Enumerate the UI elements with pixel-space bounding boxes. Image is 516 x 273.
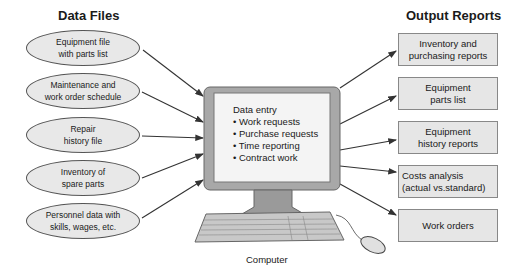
data-files-heading: Data Files <box>58 8 119 23</box>
computer-screen-text: Data entry • Work requests • Purchase re… <box>233 104 318 164</box>
label: Inventory and <box>409 38 488 50</box>
keyboard-icon <box>195 212 344 242</box>
data-file-maintenance: Maintenance andwork order schedule <box>26 73 140 109</box>
label: (actual vs.standard) <box>402 182 485 194</box>
label: purchasing reports <box>409 50 488 62</box>
label: Work orders <box>422 220 474 232</box>
label: Repair <box>64 123 102 135</box>
label: Inventory of <box>61 166 105 178</box>
input-arrows <box>142 50 203 218</box>
data-file-repair-history: Repairhistory file <box>26 117 140 153</box>
label: Maintenance and <box>45 79 122 91</box>
mouse-icon <box>336 215 388 257</box>
data-entry-title: Data entry <box>233 104 318 116</box>
label: skills, wages, etc. <box>46 221 121 233</box>
data-file-personnel: Personnel data withskills, wages, etc. <box>26 203 140 239</box>
data-file-equipment: Equipment filewith parts list <box>26 30 140 66</box>
label: spare parts <box>61 178 105 190</box>
report-work-orders: Work orders <box>398 209 498 242</box>
label: history file <box>64 135 102 147</box>
label: parts list <box>425 94 470 106</box>
computer-caption: Computer <box>246 254 288 265</box>
report-equipment-parts: Equipmentparts list <box>398 77 498 110</box>
report-costs-analysis: Costs analysis(actual vs.standard) <box>398 165 498 198</box>
screen-item: • Work requests <box>233 116 318 128</box>
label: history reports <box>418 138 478 150</box>
screen-item: • Purchase requests <box>233 128 318 140</box>
output-reports-heading: Output Reports <box>406 8 501 23</box>
output-arrows <box>340 51 396 215</box>
report-inventory-purchasing: Inventory andpurchasing reports <box>398 33 498 66</box>
screen-item: • Contract work <box>233 152 318 164</box>
label: Equipment <box>418 126 478 138</box>
label: Costs analysis <box>402 170 485 182</box>
label: Equipment file <box>56 36 110 48</box>
data-file-inventory: Inventory ofspare parts <box>26 160 140 196</box>
label: Equipment <box>425 82 470 94</box>
label: work order schedule <box>45 91 122 103</box>
label: with parts list <box>56 48 110 60</box>
label: Personnel data with <box>46 209 121 221</box>
report-equipment-history: Equipmenthistory reports <box>398 121 498 154</box>
screen-item: • Time reporting <box>233 140 318 152</box>
